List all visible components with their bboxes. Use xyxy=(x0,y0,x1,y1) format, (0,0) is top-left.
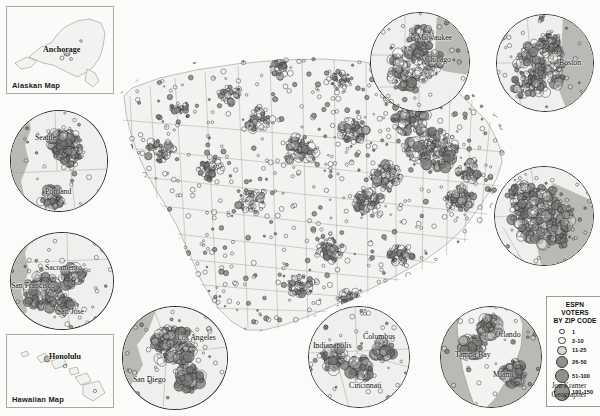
city-label-tampa-bay: Tampa Bay xyxy=(455,350,491,359)
legend-label: 51-100 xyxy=(572,373,590,379)
cartographer-credit: Jon Kramer Geographer xyxy=(534,381,600,399)
legend-row: 26-50 xyxy=(552,355,598,368)
city-label-sacramento: Sacramento xyxy=(45,263,82,272)
inset-alaska: Anchorage Alaskan Map xyxy=(6,6,114,94)
socal-basemap xyxy=(123,307,227,409)
inset-caption-hawaii: Hawaiian Map xyxy=(12,395,64,404)
legend-label: 2-10 xyxy=(572,338,584,344)
inset-new-york xyxy=(494,166,594,266)
city-label-chicago: Chicago xyxy=(425,55,451,64)
city-label-milwaukee: Milwaukee xyxy=(417,33,452,42)
city-label-columbus: Columbus xyxy=(363,332,395,341)
legend-symbol xyxy=(552,329,572,334)
credit-name: Jon Kramer xyxy=(534,381,600,390)
legend-label: 26-50 xyxy=(572,359,587,365)
inset-hawaii: Honolulu Hawaiian Map xyxy=(6,334,114,408)
legend-label: 11-25 xyxy=(572,347,587,353)
city-label-miami: Miami xyxy=(493,370,514,379)
legend-row: 11-25 xyxy=(552,345,598,355)
legend-row: 1 xyxy=(552,327,598,336)
inset-chicago-milwaukee: Milwaukee Chicago xyxy=(370,12,470,112)
inset-bay-area: Sacramento San Francisco San Jose xyxy=(10,232,114,330)
city-label-san-jose: San Jose xyxy=(57,307,84,316)
legend-row: 2-10 xyxy=(552,336,598,345)
legend-symbol xyxy=(552,337,572,344)
seattle-basemap xyxy=(11,111,107,211)
city-label-san-francisco: San Francisco xyxy=(11,281,55,290)
ohio-basemap xyxy=(309,307,409,407)
inset-ohio-valley: Indianapolis Columbus Cincinnati xyxy=(308,306,410,408)
legend-label: 1 xyxy=(572,329,575,335)
legend-title-line1: ESPN VOTERS xyxy=(552,301,598,317)
city-label-san-diego: San Diego xyxy=(133,375,166,384)
legend-symbol xyxy=(552,346,572,355)
city-label-boston: Boston xyxy=(559,58,581,67)
inset-florida: Orlando Tampa Bay Miami xyxy=(440,306,542,408)
city-label-honolulu: Honolulu xyxy=(49,352,81,361)
city-label-los-angeles: Los Angeles xyxy=(177,333,216,342)
inset-southern-california: Los Angeles San Diego xyxy=(122,306,228,410)
inset-caption-alaska: Alaskan Map xyxy=(12,81,60,90)
city-label-portland: Portland xyxy=(45,187,71,196)
legend-title-line2: BY ZIP CODE xyxy=(552,317,598,325)
city-label-seattle: Seattle xyxy=(35,133,56,142)
inset-seattle-portland: Seattle Portland xyxy=(10,110,108,212)
chicago-basemap xyxy=(371,13,469,111)
city-label-cincinnati: Cincinnati xyxy=(349,381,381,390)
newyork-basemap xyxy=(495,167,593,265)
credit-role: Geographer xyxy=(534,390,600,399)
inset-boston: Boston xyxy=(496,14,594,112)
city-label-indianapolis: Indianapolis xyxy=(313,341,352,350)
legend-symbol xyxy=(552,356,572,368)
city-label-anchorage: Anchorage xyxy=(43,45,80,54)
map-canvas: Anchorage Alaskan Map Honolulu Hawaiian … xyxy=(0,0,600,416)
city-label-orlando: Orlando xyxy=(495,330,521,339)
